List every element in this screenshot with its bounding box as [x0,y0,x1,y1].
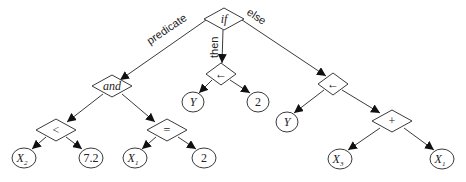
node-assign-then-label: ← [215,67,227,81]
edge-lt-c72 [66,137,82,149]
leaf-x2-sub: 2 [24,159,28,167]
node-plus-label: + [389,114,396,128]
edge-label-else: else [245,6,268,27]
edges [32,20,434,150]
edge-plus-x3 [348,128,380,150]
leaf-x1b-sub: 1 [442,160,446,168]
leaf-c2a: 2 [192,148,216,168]
expression-tree-diagram: predicate then else if and < = ← ← + X2 … [0,0,466,182]
node-if: if [204,8,244,30]
edge-assign-then-c2b [230,80,250,93]
edge-label-then: then [208,37,220,58]
node-lt: < [36,119,76,141]
edge-and-eq [122,94,155,122]
node-and: and [92,75,132,97]
leaf-x1b: X1 [430,149,454,169]
edge-label-predicate: predicate [144,11,188,46]
edge-if-assign-then [222,30,223,63]
edge-eq-c2a [178,137,196,149]
leaf-x3: X3 [328,149,352,169]
edge-and-lt [67,94,103,122]
leaf-x2: X2 [12,148,36,168]
edge-if-assign-else [242,20,326,76]
node-lt-label: < [53,123,60,137]
edge-eq-x1a [142,137,156,149]
node-eq-label: = [164,123,171,137]
leaf-y-then: Y [182,92,204,112]
leaf-c2b: 2 [247,92,269,112]
leaf-x1a-sub: 1 [135,159,139,167]
node-assign-else-label: ← [327,77,339,91]
leaf-y-else: Y [276,112,298,132]
edge-assign-else-y [294,90,324,113]
leaf-c72: 7.2 [79,148,103,168]
node-eq: = [147,119,187,141]
edge-plus-x1b [404,128,434,150]
edge-assign-then-y [199,80,212,93]
edge-assign-else-plus [342,90,380,113]
leaf-c72-label: 7.2 [84,151,99,165]
node-plus: + [372,110,412,132]
leaf-x3-sub: 3 [339,160,344,168]
leaf-x1a: X1 [123,148,147,168]
leaf-c2a-label: 2 [201,151,207,165]
edge-lt-x2 [32,137,46,149]
node-and-label: and [103,79,122,93]
leaf-c2b-label: 2 [255,95,261,109]
